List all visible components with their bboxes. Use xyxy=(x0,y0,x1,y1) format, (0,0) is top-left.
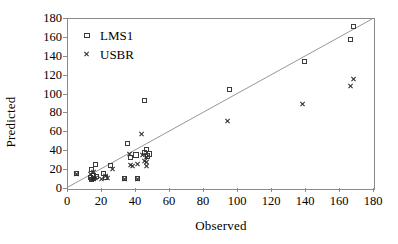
x-tick-mark xyxy=(135,188,136,192)
y-tick-label: 80 xyxy=(36,106,62,118)
y-tick-mark xyxy=(63,112,67,113)
y-tick-label: 20 xyxy=(36,163,62,175)
y-tick-label: 0 xyxy=(36,182,62,194)
x-axis-title: Observed xyxy=(67,218,375,234)
y-tick-label: 160 xyxy=(36,31,62,43)
legend-marker-square-icon xyxy=(80,29,94,43)
y-tick-mark xyxy=(63,75,67,76)
y-tick-mark xyxy=(63,94,67,95)
x-tick-mark xyxy=(339,188,340,192)
y-tick-label: 60 xyxy=(36,125,62,137)
y-tick-mark xyxy=(63,150,67,151)
x-tick-mark xyxy=(203,188,204,192)
x-tick-mark xyxy=(373,188,374,192)
plot-frame: LMS1 USBR xyxy=(67,18,375,190)
y-tick-label: 180 xyxy=(36,12,62,24)
x-tick-mark xyxy=(305,188,306,192)
x-tick-mark xyxy=(67,188,68,192)
y-tick-mark xyxy=(63,56,67,57)
x-tick-mark xyxy=(237,188,238,192)
y-tick-mark xyxy=(63,18,67,19)
y-tick-mark xyxy=(63,169,67,170)
y-axis-title: Predicted xyxy=(0,0,22,244)
legend-label-usbr: USBR xyxy=(100,48,134,62)
y-tick-label: 40 xyxy=(36,144,62,156)
y-tick-mark xyxy=(63,131,67,132)
x-tick-mark xyxy=(169,188,170,192)
y-tick-mark xyxy=(63,37,67,38)
x-tick-mark xyxy=(101,188,102,192)
legend-marker-cross-icon xyxy=(80,48,94,62)
x-tick-label: 180 xyxy=(353,195,393,207)
legend-item-usbr: USBR xyxy=(80,45,134,64)
y-tick-label: 100 xyxy=(36,88,62,100)
y-tick-label: 120 xyxy=(36,69,62,81)
y-tick-label: 140 xyxy=(36,50,62,62)
legend-item-lms1: LMS1 xyxy=(80,26,134,45)
x-tick-mark xyxy=(271,188,272,192)
scatter-plot-figure: Predicted Observed LMS1 USBR 02040608010… xyxy=(0,0,398,244)
legend-label-lms1: LMS1 xyxy=(100,29,133,43)
legend: LMS1 USBR xyxy=(80,26,134,64)
